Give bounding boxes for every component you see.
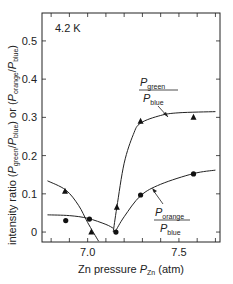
circle-marker-icon bbox=[87, 216, 92, 221]
y-tick-label: 0 bbox=[31, 226, 37, 238]
x-axis-label: Zn pressure PZn (atm) bbox=[78, 263, 184, 276]
y-tick-label: 0.3 bbox=[22, 111, 37, 123]
y-axis-label: intensity ratio (Pgreen/Pblue) or (Poran… bbox=[6, 45, 20, 245]
orange-label-denominator: Pblue bbox=[160, 222, 181, 236]
y-tick-label: 0.1 bbox=[22, 188, 37, 200]
green-label-denominator: Pblue bbox=[143, 92, 164, 106]
circle-marker-icon bbox=[138, 192, 143, 197]
orange-arrowhead-icon bbox=[152, 188, 157, 193]
x-tick-label: 7.0 bbox=[80, 246, 95, 258]
y-tick-label: 0.5 bbox=[22, 35, 37, 47]
circle-marker-icon bbox=[191, 171, 196, 176]
orange-low-branch-curve bbox=[47, 215, 113, 228]
y-tick-label: 0.4 bbox=[22, 73, 37, 85]
y-tick-label: 0.2 bbox=[22, 150, 37, 162]
x-tick-label: 7.5 bbox=[171, 246, 186, 258]
fit-curves bbox=[47, 112, 215, 242]
triangle-marker-icon bbox=[114, 204, 120, 210]
orange-label-numerator: Porange bbox=[155, 206, 184, 221]
temperature-annotation: 4.2 K bbox=[55, 22, 81, 34]
green-label-numerator: Pgreen bbox=[140, 76, 165, 91]
triangle-marker-icon bbox=[138, 118, 144, 124]
circle-marker-icon bbox=[113, 229, 118, 234]
circle-marker-icon bbox=[63, 218, 68, 223]
chart: 7.07.500.10.20.30.40.5 4.2 K Pgreen Pblu… bbox=[0, 0, 233, 284]
triangle-marker-icon bbox=[191, 114, 197, 120]
legend-green: Pgreen Pblue bbox=[139, 76, 178, 117]
legend-orange: Porange Pblue bbox=[152, 188, 190, 236]
